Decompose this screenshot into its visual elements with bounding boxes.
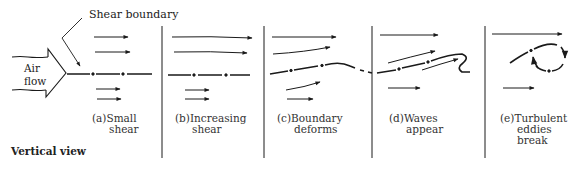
caption-a: (a)Small shear	[92, 113, 139, 135]
caption-d-line2: appear	[389, 124, 443, 135]
caption-e: (e)Turbulent eddies break	[500, 113, 567, 146]
panel-c-flow	[270, 37, 372, 99]
caption-b: (b)Increasing shear	[175, 113, 246, 135]
caption-d: (d)Waves appear	[389, 113, 443, 135]
vertical-view-label: Vertical view	[11, 146, 86, 157]
caption-a-line2: shear	[92, 124, 139, 135]
panel-b-flow	[168, 37, 252, 99]
caption-e-prefix: (e)	[500, 112, 514, 124]
panel-a-flow	[67, 37, 152, 99]
caption-c: (c)Boundary deforms	[277, 113, 343, 135]
caption-b-line2: shear	[175, 124, 246, 135]
panel-e-flow	[492, 34, 565, 88]
caption-c-prefix: (c)	[277, 112, 291, 124]
air-flow-label-line1: Air	[24, 63, 40, 74]
air-flow-label-line2: flow	[24, 76, 46, 87]
panel-d-flow	[377, 35, 470, 88]
shear-boundary-label: Shear boundary	[89, 9, 178, 20]
diagram-canvas	[0, 0, 577, 169]
caption-e-line3: break	[500, 135, 567, 146]
shear-boundary-leader	[62, 18, 82, 66]
caption-d-prefix: (d)	[389, 112, 404, 124]
caption-c-line2: deforms	[277, 124, 343, 135]
caption-a-prefix: (a)	[92, 112, 106, 124]
caption-b-prefix: (b)	[175, 112, 190, 124]
shear-instability-diagram: Shear boundary Air flow Vertical view (a…	[0, 0, 577, 169]
